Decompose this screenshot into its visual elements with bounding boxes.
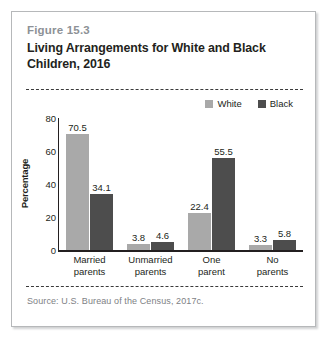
divider-top	[26, 89, 303, 90]
bar-rect	[188, 213, 211, 250]
bar-value-label: 3.3	[254, 233, 267, 244]
category-label: Noparents	[242, 254, 303, 277]
bar-rect	[273, 240, 296, 250]
chart-legend: White Black	[205, 98, 293, 109]
category-label-line: One	[181, 254, 242, 266]
bar-value-label: 22.4	[190, 201, 209, 212]
category-label-line: parents	[120, 266, 181, 278]
y-tick-label: 80	[45, 113, 56, 124]
legend-swatch-black	[258, 100, 266, 108]
y-axis-ticks: 020406080	[34, 118, 56, 250]
legend-item-white: White	[205, 98, 241, 109]
bar-group: 22.455.5	[181, 118, 242, 250]
category-label-line: Married	[59, 254, 120, 266]
figure-number: Figure 15.3	[27, 24, 90, 36]
bar-rect	[66, 134, 89, 250]
x-axis-line	[58, 250, 303, 252]
bar-black-unmarried-parents: 4.6	[151, 118, 174, 250]
bar-value-label: 5.8	[278, 228, 291, 239]
y-tick-label: 60	[45, 146, 56, 157]
legend-swatch-white	[205, 100, 213, 108]
category-label-line: parents	[242, 266, 303, 278]
bar-group: 70.534.1	[59, 118, 120, 250]
y-axis-title: Percentage	[19, 154, 30, 214]
bar-black-one-parent: 55.5	[212, 118, 235, 250]
bar-black-married-parents: 34.1	[90, 118, 113, 250]
divider-bottom	[26, 286, 303, 287]
bar-white-no-parents: 3.3	[249, 118, 272, 250]
bar-rect	[151, 242, 174, 250]
bar-black-no-parents: 5.8	[273, 118, 296, 250]
bar-groups: 70.534.13.84.622.455.53.35.8	[59, 118, 303, 250]
category-label-line: parent	[181, 266, 242, 278]
category-label-line: No	[242, 254, 303, 266]
bar-value-label: 70.5	[68, 122, 87, 133]
plot-area: Percentage 020406080 70.534.13.84.622.45…	[12, 118, 317, 284]
x-axis-category-labels: MarriedparentsUnmarriedparentsOneparentN…	[59, 254, 303, 277]
y-tick-label: 20	[45, 212, 56, 223]
bar-value-label: 3.8	[132, 232, 145, 243]
bar-rect	[249, 245, 272, 250]
figure-title: Living Arrangements for White and Black …	[27, 40, 299, 72]
category-label-line: Unmarried	[120, 254, 181, 266]
category-label: Oneparent	[181, 254, 242, 277]
bar-group: 3.35.8	[242, 118, 303, 250]
bar-value-label: 34.1	[92, 182, 111, 193]
y-tick-label: 40	[45, 179, 56, 190]
category-label-line: parents	[59, 266, 120, 278]
bar-value-label: 55.5	[214, 146, 233, 157]
bar-white-one-parent: 22.4	[188, 118, 211, 250]
legend-label-white: White	[217, 98, 241, 109]
category-label: Unmarriedparents	[120, 254, 181, 277]
source-note: Source: U.S. Bureau of the Census, 2017c…	[27, 296, 204, 306]
bar-white-unmarried-parents: 3.8	[127, 118, 150, 250]
figure-card: Figure 15.3 Living Arrangements for Whit…	[11, 11, 316, 327]
category-label: Marriedparents	[59, 254, 120, 277]
legend-item-black: Black	[258, 98, 293, 109]
y-tick-label: 0	[51, 245, 56, 256]
bar-value-label: 4.6	[156, 230, 169, 241]
bar-rect	[212, 158, 235, 250]
legend-label-black: Black	[270, 98, 293, 109]
bar-chart: White Black Percentage 020406080 70.534.…	[12, 96, 317, 284]
bar-group: 3.84.6	[120, 118, 181, 250]
bar-rect	[90, 194, 113, 250]
bar-rect	[127, 244, 150, 250]
bar-white-married-parents: 70.5	[66, 118, 89, 250]
